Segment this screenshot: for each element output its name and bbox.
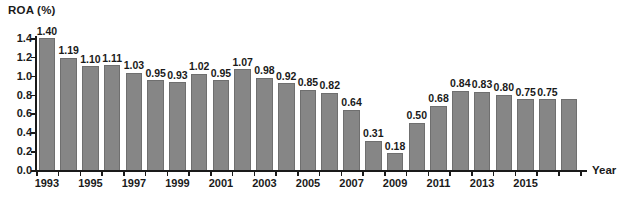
bar-slot: 0.75 [539,38,556,170]
bar-value-label: 0.95 [145,68,165,79]
bar[interactable] [147,80,164,170]
x-axis-tick [384,171,386,176]
bar-slot: 1.10 [82,38,99,170]
bar-value-label: 0.64 [341,97,361,108]
bar[interactable] [474,92,491,170]
x-axis-tick [558,171,560,176]
bar-value-label: 0.84 [450,78,470,89]
bar-value-label: 0.95 [211,68,231,79]
x-axis-tick [341,171,343,176]
x-axis-tick [362,171,364,176]
bar-slot: 1.40 [39,38,56,170]
bar[interactable] [321,93,338,170]
y-axis-tick-label: 0.2 [17,146,32,157]
x-axis-tick [515,171,517,176]
y-axis-title: ROA (%) [8,4,56,16]
bar-slot: 1.19 [60,38,77,170]
x-axis-tick [406,171,408,176]
bar[interactable] [365,141,382,170]
bar[interactable] [452,91,469,170]
x-axis-tick-label: 2013 [470,178,494,189]
bar-value-label: 0.75 [515,87,535,98]
bar[interactable] [539,99,556,170]
plot-area: 0.00.20.40.60.81.01.21.4 1.401.191.101.1… [36,38,580,170]
bar[interactable] [409,123,426,170]
x-axis-tick-label: 2011 [427,178,451,189]
roa-bar-chart: ROA (%) 0.00.20.40.60.81.01.21.4 1.401.1… [0,0,624,200]
bar-value-label: 0.85 [298,77,318,88]
x-axis-title: Year [592,164,616,176]
bar-value-label: 1.07 [232,57,252,68]
x-axis-tick-label: 1993 [35,178,59,189]
bar-value-label: 1.40 [37,26,57,37]
x-axis-tick [101,171,103,176]
bar-slot [561,38,578,170]
bar[interactable] [169,82,186,170]
bar-value-label: 0.98 [254,65,274,76]
bar-value-label: 0.80 [494,82,514,93]
bar[interactable] [60,58,77,170]
bar-value-label: 0.82 [320,80,340,91]
x-axis-tick [449,171,451,176]
x-axis-tick [580,171,582,176]
bar[interactable] [343,110,360,170]
x-axis-tick [80,171,82,176]
x-axis-tick-label: 1995 [78,178,102,189]
y-axis-tick-label: 0.8 [17,89,32,100]
bar-slot: 0.93 [169,38,186,170]
bar[interactable] [496,95,513,170]
bar-slot: 1.02 [191,38,208,170]
bar[interactable] [39,38,56,170]
x-axis-tick-label: 2009 [383,178,407,189]
x-axis-tick-label: 2015 [513,178,537,189]
bar[interactable] [517,99,534,170]
bar[interactable] [561,99,578,170]
bar-slot: 0.83 [474,38,491,170]
bar[interactable] [126,73,143,170]
bar-value-label: 0.83 [472,79,492,90]
bar-slot: 0.92 [278,38,295,170]
y-axis-tick-label: 0.4 [17,127,32,138]
y-axis-tick-label: 1.4 [17,33,32,44]
x-axis-tick-label: 2007 [339,178,363,189]
bar-slot: 0.95 [147,38,164,170]
bar[interactable] [191,74,208,170]
bar-value-label: 0.18 [385,141,405,152]
bar[interactable] [256,78,273,170]
bar-value-label: 0.93 [167,70,187,81]
x-axis-tick [297,171,299,176]
bar[interactable] [278,83,295,170]
bar[interactable] [387,153,404,170]
bar-slot: 0.80 [496,38,513,170]
x-axis-tick [58,171,60,176]
bar[interactable] [430,106,447,170]
bar-value-label: 1.02 [189,61,209,72]
x-axis-tick-label: 1999 [165,178,189,189]
bar-value-label: 0.31 [363,128,383,139]
bar-slot: 1.07 [234,38,251,170]
bar-slot: 0.31 [365,38,382,170]
bar[interactable] [104,65,121,170]
bar[interactable] [213,80,230,170]
x-axis-tick [319,171,321,176]
x-axis-tick-label: 2003 [252,178,276,189]
bar-slot: 0.75 [517,38,534,170]
x-axis-tick [428,171,430,176]
bar-slot: 0.82 [321,38,338,170]
x-axis-tick [167,171,169,176]
x-axis-tick-label: 1997 [122,178,146,189]
bar[interactable] [82,66,99,170]
bar-slot: 0.95 [213,38,230,170]
bar[interactable] [234,69,251,170]
bar-value-label: 1.10 [80,54,100,65]
bar-slot: 1.03 [126,38,143,170]
bar[interactable] [300,90,317,170]
x-axis-tick [493,171,495,176]
x-axis-tick [471,171,473,176]
x-axis-tick-label: 2005 [296,178,320,189]
bar-slot: 0.18 [387,38,404,170]
x-axis-tick [36,171,38,176]
y-axis-tick-label: 0.6 [17,108,32,119]
x-axis-line [35,170,587,172]
y-axis-tick-label: 1.2 [17,51,32,62]
